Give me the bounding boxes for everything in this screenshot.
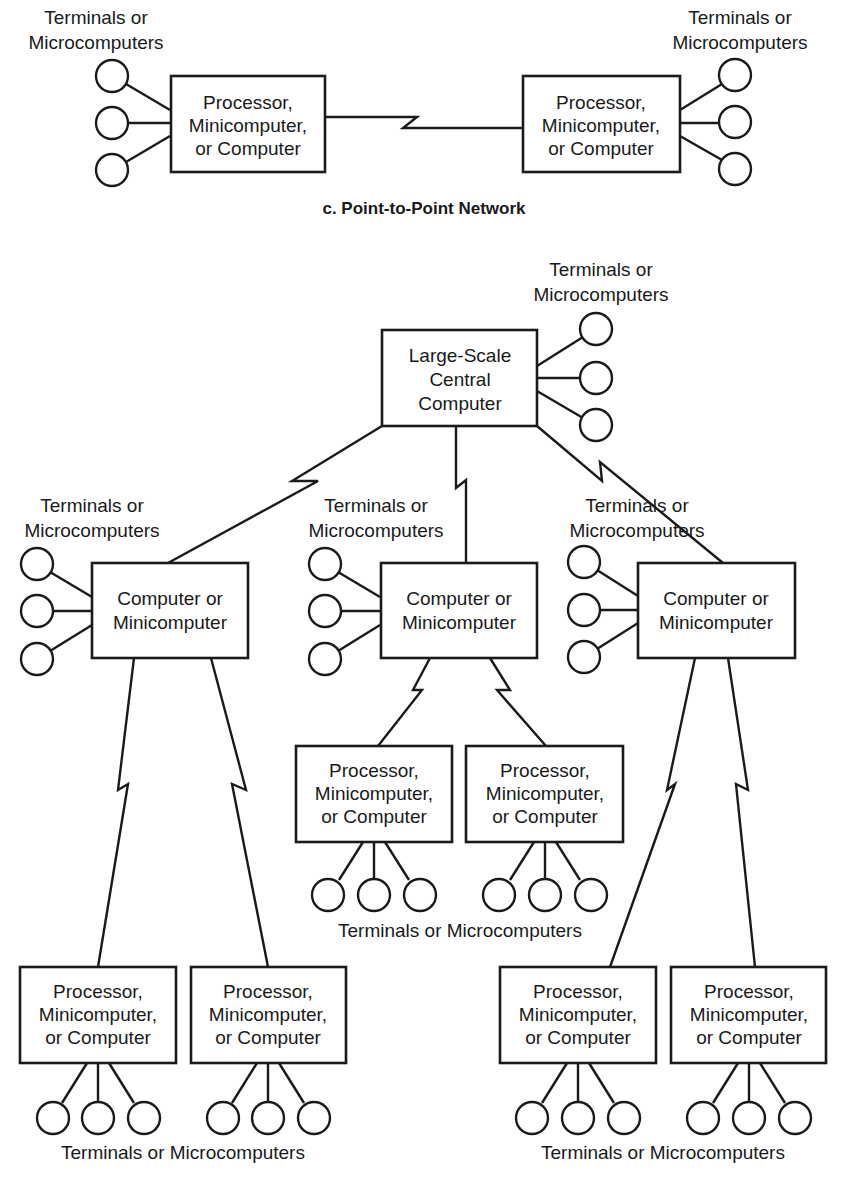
terminal-icon	[96, 154, 128, 186]
terminal-icon	[309, 643, 341, 675]
terminals-label: Microcomputers	[28, 32, 163, 53]
node-label: Processor,	[223, 981, 313, 1002]
node-label: Processor,	[500, 760, 590, 781]
terminal-icon	[687, 1102, 719, 1134]
node-label: Computer or	[117, 588, 223, 609]
terminals-label: Terminals or	[585, 495, 689, 516]
terminal-icon	[298, 1102, 330, 1134]
point-to-point-network: Terminals or Microcomputers Terminals or…	[28, 7, 807, 218]
node-label: Minicomputer,	[209, 1004, 327, 1025]
terminal-icon	[358, 879, 390, 911]
terminals-label: Terminals or	[44, 7, 148, 28]
terminals-label: Terminals or	[324, 495, 428, 516]
node-label: Computer or	[663, 588, 769, 609]
network-diagram: Terminals or Microcomputers Terminals or…	[0, 0, 847, 1188]
node-label: Minicomputer	[659, 612, 774, 633]
terminal-icon	[207, 1102, 239, 1134]
terminal-icon	[309, 595, 341, 627]
terminal-icon	[21, 643, 53, 675]
communication-link	[728, 658, 755, 967]
terminal-icon	[575, 879, 607, 911]
node-label: Large-Scale	[409, 345, 511, 366]
node-label: Minicomputer,	[315, 783, 433, 804]
terminal-icon	[21, 595, 53, 627]
terminal-icon	[82, 1102, 114, 1134]
node-label: or Computer	[215, 1027, 321, 1048]
terminals-label: Terminals or Microcomputers	[61, 1142, 305, 1163]
terminal-icon	[309, 548, 341, 580]
terminals-label: Microcomputers	[24, 520, 159, 541]
node-label: Minicomputer	[113, 612, 228, 633]
terminals-label: Microcomputers	[672, 32, 807, 53]
terminal-icon	[128, 1102, 160, 1134]
communication-link	[490, 658, 546, 746]
node-label: Processor,	[704, 981, 794, 1002]
terminal-icon	[568, 641, 600, 673]
node-label: Processor,	[533, 981, 623, 1002]
communication-link	[211, 658, 268, 967]
node-label: or Computer	[492, 806, 598, 827]
terminal-icon	[37, 1102, 69, 1134]
node-label: Central	[429, 369, 490, 390]
node-label: or Computer	[195, 138, 301, 159]
terminal-icon	[733, 1102, 765, 1134]
terminal-icon	[483, 879, 515, 911]
node-label: Processor,	[556, 92, 646, 113]
figure-caption: c. Point-to-Point Network	[322, 199, 526, 218]
node-label: Processor,	[203, 92, 293, 113]
terminal-icon	[252, 1102, 284, 1134]
node-label: or Computer	[696, 1027, 802, 1048]
node-label: Computer	[418, 393, 502, 414]
terminal-icon	[719, 59, 751, 91]
terminals-label: Terminals or	[549, 259, 653, 280]
node-label: Minicomputer,	[486, 783, 604, 804]
communication-link	[378, 658, 430, 746]
node-label: Computer or	[406, 588, 512, 609]
node-label: Processor,	[53, 981, 143, 1002]
terminal-icon	[21, 548, 53, 580]
node-label: Minicomputer,	[690, 1004, 808, 1025]
terminal-icon	[608, 1102, 640, 1134]
terminal-icon	[568, 546, 600, 578]
terminal-icon	[96, 60, 128, 92]
node-label: Processor,	[329, 760, 419, 781]
node-label: or Computer	[45, 1027, 151, 1048]
terminal-icon	[562, 1102, 594, 1134]
node-label: Minicomputer,	[189, 115, 307, 136]
terminal-icon	[580, 313, 612, 345]
terminals-label: Microcomputers	[308, 520, 443, 541]
node-label: or Computer	[548, 138, 654, 159]
hierarchical-network: Terminals or Microcomputers Large-Scale …	[20, 259, 826, 1163]
node-label: or Computer	[525, 1027, 631, 1048]
terminal-icon	[404, 879, 436, 911]
node-label: Minicomputer	[402, 612, 517, 633]
communication-link	[98, 658, 134, 967]
node-box	[92, 563, 248, 658]
communication-link	[325, 117, 523, 128]
terminal-icon	[516, 1102, 548, 1134]
terminal-icon	[580, 409, 612, 441]
node-box	[381, 563, 537, 658]
terminals-label: Microcomputers	[569, 520, 704, 541]
node-box	[638, 563, 795, 658]
terminal-icon	[529, 879, 561, 911]
node-label: Minicomputer,	[542, 115, 660, 136]
node-label: or Computer	[321, 806, 427, 827]
terminal-icon	[719, 106, 751, 138]
node-label: Minicomputer,	[519, 1004, 637, 1025]
terminal-icon	[580, 362, 612, 394]
terminals-label: Terminals or	[40, 495, 144, 516]
terminals-label: Terminals or Microcomputers	[338, 920, 582, 941]
terminal-icon	[779, 1102, 811, 1134]
terminals-label: Terminals or Microcomputers	[541, 1142, 785, 1163]
node-label: Minicomputer,	[39, 1004, 157, 1025]
terminal-icon	[719, 153, 751, 185]
terminals-label: Microcomputers	[533, 284, 668, 305]
communication-link	[456, 426, 466, 563]
terminal-icon	[312, 879, 344, 911]
terminals-label: Terminals or	[688, 7, 792, 28]
terminal-icon	[568, 594, 600, 626]
terminal-icon	[96, 107, 128, 139]
